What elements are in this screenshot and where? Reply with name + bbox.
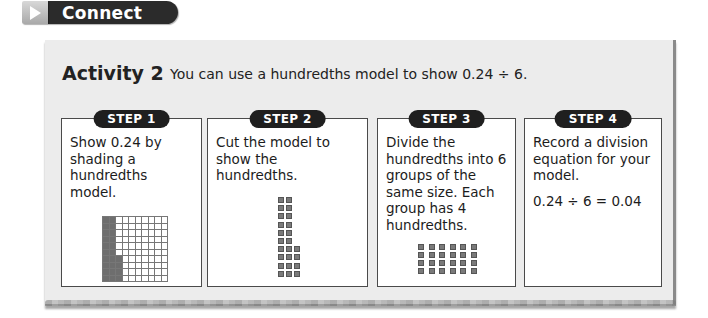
activity-description: You can use a hundredths model to show 0…	[170, 66, 527, 82]
hundredth-piece	[471, 260, 477, 266]
hundredth-piece	[286, 230, 292, 236]
hundredth-piece	[429, 244, 435, 250]
banner-label: Connect	[48, 1, 178, 24]
hundredth-piece	[450, 252, 456, 258]
six-groups-of-hundredths	[418, 244, 478, 276]
hundredth-piece	[286, 271, 292, 277]
hundredth-piece	[286, 205, 292, 211]
hundredth-piece	[278, 230, 284, 236]
hundredth-piece	[429, 252, 435, 258]
step-text: Divide the hundredths into 6 groups of t…	[386, 134, 509, 233]
hundredth-piece	[460, 268, 466, 274]
hundredth-piece	[450, 268, 456, 274]
step-text: Record a division equation for your mode…	[533, 134, 655, 184]
hundredth-piece	[460, 260, 466, 266]
hundredth-piece	[294, 246, 300, 252]
hundredth-piece	[294, 263, 300, 269]
hundredths-model-grid	[102, 216, 168, 282]
hundredth-piece	[286, 238, 292, 244]
hundredth-piece	[439, 268, 445, 274]
hundredth-piece	[460, 244, 466, 250]
step-badge: STEP 1	[93, 110, 170, 128]
hundredth-piece	[429, 268, 435, 274]
hundredth-piece	[471, 252, 477, 258]
hundredth-piece	[286, 222, 292, 228]
page: Connect Activity 2 You can use a hundred…	[0, 0, 708, 318]
step-badge: STEP 2	[249, 110, 326, 128]
hundredth-piece	[278, 222, 284, 228]
hundredth-piece	[278, 205, 284, 211]
play-triangle-icon	[22, 1, 48, 24]
step-text: Show 0.24 by shading a hundredths model.	[70, 134, 195, 200]
hundredth-piece	[471, 244, 477, 250]
grid-cell	[162, 276, 169, 283]
torn-edge-decoration	[45, 300, 676, 306]
hundredth-piece	[429, 260, 435, 266]
hundredth-piece	[418, 260, 424, 266]
step-4-box: STEP 4 Record a division equation for yo…	[524, 118, 662, 287]
connect-banner: Connect	[22, 0, 178, 25]
hundredth-piece	[278, 238, 284, 244]
hundredth-piece	[286, 254, 292, 260]
step-text: Cut the model to show the hundredths.	[216, 134, 361, 184]
step-3-box: STEP 3 Divide the hundredths into 6 grou…	[377, 118, 516, 287]
hundredth-piece	[286, 246, 292, 252]
hundredth-piece	[439, 244, 445, 250]
hundredth-piece	[450, 244, 456, 250]
hundredth-piece	[278, 197, 284, 203]
hundredth-piece	[278, 263, 284, 269]
hundredth-piece	[450, 260, 456, 266]
hundredth-piece	[278, 213, 284, 219]
division-equation: 0.24 ÷ 6 = 0.04	[533, 193, 642, 209]
cut-hundredths-pieces	[278, 197, 308, 277]
activity-title: Activity 2	[62, 62, 164, 84]
hundredth-piece	[471, 268, 477, 274]
hundredth-piece	[418, 252, 424, 258]
hundredth-piece	[278, 271, 284, 277]
step-1-box: STEP 1 Show 0.24 by shading a hundredths…	[61, 118, 202, 287]
step-badge: STEP 3	[408, 110, 485, 128]
step-2-box: STEP 2 Cut the model to show the hundred…	[207, 118, 368, 287]
hundredth-piece	[418, 268, 424, 274]
hundredth-piece	[286, 213, 292, 219]
hundredth-piece	[294, 271, 300, 277]
hundredth-piece	[286, 263, 292, 269]
hundredth-piece	[294, 254, 300, 260]
hundredth-piece	[286, 197, 292, 203]
hundredth-piece	[439, 260, 445, 266]
hundredth-piece	[278, 254, 284, 260]
hundredth-piece	[278, 246, 284, 252]
hundredth-piece	[460, 252, 466, 258]
hundredth-piece	[418, 244, 424, 250]
step-badge: STEP 4	[555, 110, 632, 128]
hundredth-piece	[439, 252, 445, 258]
